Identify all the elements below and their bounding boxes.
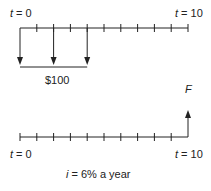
bottom-start-label: t = 0: [10, 148, 32, 160]
top-start-rest: = 0: [13, 7, 32, 19]
interest-rate-label: i = 6% a year: [66, 168, 131, 180]
top-end-rest: = 10: [178, 7, 203, 19]
payment-arrow-head: [84, 57, 90, 65]
top-start-label: t = 0: [10, 7, 32, 19]
payment-arrow-head: [51, 57, 57, 65]
payment-label: $100: [45, 74, 69, 86]
payment-arrow-head: [17, 57, 23, 65]
future-value-label: F: [185, 83, 192, 95]
bottom-end-rest: = 10: [178, 148, 203, 160]
cash-flow-diagrams: [0, 0, 211, 191]
top-end-label: t = 10: [175, 7, 203, 19]
interest-rest: = 6% a year: [68, 168, 130, 180]
bottom-start-rest: = 0: [13, 148, 32, 160]
bottom-end-label: t = 10: [175, 148, 203, 160]
future-value-arrow-head: [185, 110, 191, 118]
